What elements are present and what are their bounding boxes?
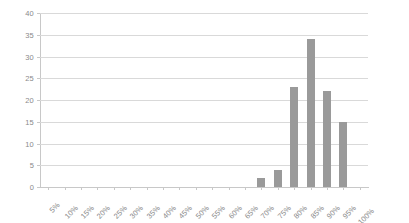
bar-slot xyxy=(155,13,171,187)
x-tick-mark xyxy=(114,187,115,190)
y-tick-label: 5 xyxy=(30,161,34,170)
x-tick-mark xyxy=(81,187,82,190)
x-tick-mark xyxy=(327,187,328,190)
x-tick-label-text: 5% xyxy=(48,201,62,215)
bar-slot xyxy=(319,13,335,187)
bar[interactable] xyxy=(290,87,298,187)
bar-slot xyxy=(302,13,318,187)
x-tick-mark xyxy=(196,187,197,190)
x-tick-mark xyxy=(97,187,98,190)
bar[interactable] xyxy=(339,122,347,187)
bar-slot xyxy=(40,13,56,187)
bar-slot xyxy=(352,13,368,187)
y-tick-label: 35 xyxy=(25,30,34,39)
bar-slot xyxy=(204,13,220,187)
bar-slot xyxy=(335,13,351,187)
x-tick-mark xyxy=(245,187,246,190)
x-tick-mark xyxy=(343,187,344,190)
y-tick-label: 20 xyxy=(25,96,34,105)
bar-slot xyxy=(89,13,105,187)
x-tick-mark xyxy=(360,187,361,190)
x-tick-mark xyxy=(261,187,262,190)
x-tick-mark xyxy=(130,187,131,190)
x-tick-mark xyxy=(147,187,148,190)
bar[interactable] xyxy=(307,39,315,187)
bar-slot xyxy=(56,13,72,187)
plot-area xyxy=(40,13,368,187)
y-axis: 0510152025303540 xyxy=(0,0,40,223)
bar-slot xyxy=(220,13,236,187)
bar-slot xyxy=(73,13,89,187)
x-tick-mark xyxy=(179,187,180,190)
y-tick-label: 25 xyxy=(25,74,34,83)
x-tick-mark xyxy=(163,187,164,190)
bar[interactable] xyxy=(274,170,282,187)
bar-slot xyxy=(106,13,122,187)
bar-slot xyxy=(171,13,187,187)
x-tick-mark xyxy=(311,187,312,190)
x-tick-mark xyxy=(212,187,213,190)
bar-series xyxy=(40,13,368,187)
x-tick-label: 95% xyxy=(352,193,369,210)
x-tick-mark xyxy=(65,187,66,190)
x-tick-mark xyxy=(294,187,295,190)
x-tick-label: 100% xyxy=(369,193,389,213)
bar-slot xyxy=(237,13,253,187)
bar-chart: 0510152025303540 5%10%15%20%25%30%35%40%… xyxy=(0,0,409,223)
bar-slot xyxy=(138,13,154,187)
y-tick-label: 30 xyxy=(25,52,34,61)
bar-slot xyxy=(270,13,286,187)
bar-slot xyxy=(188,13,204,187)
bar-slot xyxy=(253,13,269,187)
x-tick-label: 5% xyxy=(55,193,69,207)
x-axis: 5%10%15%20%25%30%35%40%45%50%55%60%65%70… xyxy=(40,187,368,223)
bar[interactable] xyxy=(323,91,331,187)
bar-slot xyxy=(122,13,138,187)
x-tick-mark xyxy=(278,187,279,190)
x-tick-label-text: 10% xyxy=(62,204,79,221)
bar[interactable] xyxy=(257,178,265,187)
x-tick-mark xyxy=(48,187,49,190)
bar-slot xyxy=(286,13,302,187)
x-tick-label-text: 100% xyxy=(356,207,376,223)
y-tick-label: 10 xyxy=(25,139,34,148)
y-tick-label: 15 xyxy=(25,117,34,126)
y-tick-label: 40 xyxy=(25,9,34,18)
y-tick-label: 0 xyxy=(30,183,34,192)
x-tick-mark xyxy=(229,187,230,190)
